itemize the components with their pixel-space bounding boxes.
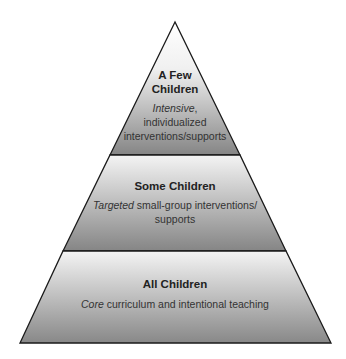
tier-top-title-line1: A Few [105, 68, 245, 82]
tier-middle-title: Some Children [75, 179, 275, 193]
tier-middle-desc-rest: small-group interventions/ [134, 199, 257, 211]
tier-middle-desc-line2: supports [75, 212, 275, 226]
tier-top-title: A Few Children [105, 68, 245, 96]
tier-top-desc-emphasis: Intensive [153, 102, 195, 114]
tier-bottom-desc: Core curriculum and intentional teaching [40, 297, 310, 311]
tier-middle-desc-emphasis: Targeted [93, 199, 134, 211]
tier-bottom-desc-emphasis: Core [81, 298, 104, 310]
tier-top-desc-line2: individualized [105, 115, 245, 129]
tier-top-label: A Few Children Intensive, individualized… [105, 68, 245, 143]
tier-top-desc: Intensive, individualized interventions/… [105, 101, 245, 143]
tier-bottom-title: All Children [40, 277, 310, 291]
tier-middle-label: Some Children Targeted small-group inter… [75, 179, 275, 226]
tier-top-desc-rest: , [195, 102, 198, 114]
tier-middle-desc: Targeted small-group interventions/ supp… [75, 198, 275, 226]
tier-bottom-label: All Children Core curriculum and intenti… [40, 277, 310, 311]
tier-top-desc-line3: interventions/supports [105, 129, 245, 143]
tier-top-title-line2: Children [105, 82, 245, 96]
tier-bottom-desc-rest: curriculum and intentional teaching [104, 298, 269, 310]
